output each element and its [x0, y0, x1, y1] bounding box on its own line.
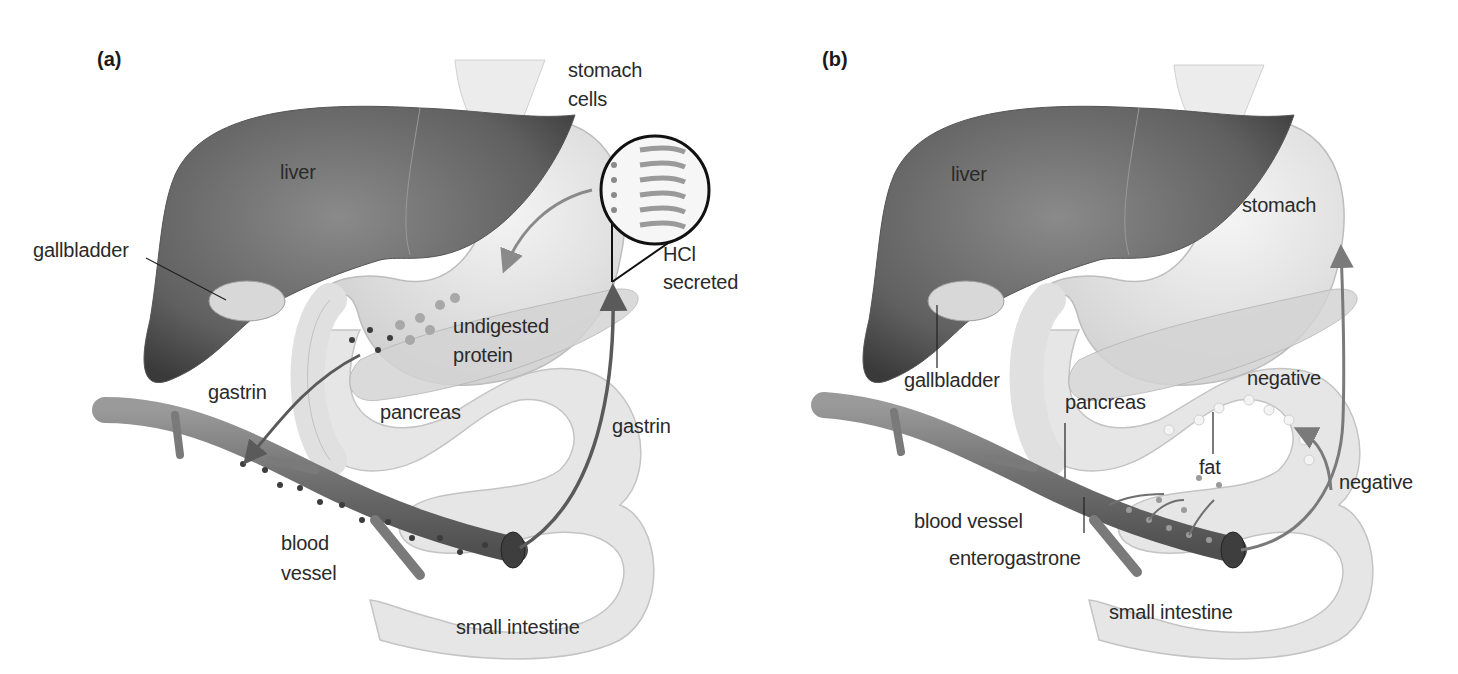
label-small-intestine: small intestine [456, 613, 580, 641]
label-small-intestine: small intestine [1109, 598, 1233, 626]
panel-b-label: (b) [822, 48, 848, 71]
label-liver: liver [951, 160, 987, 188]
label-gastrin-left: gastrin [208, 378, 267, 406]
label-secreted: secreted [663, 268, 738, 296]
label-liver: liver [280, 158, 316, 186]
label-stomach: stomach [1242, 191, 1316, 219]
label-enterogastrone: enterogastrone [949, 544, 1081, 572]
label-vessel: vessel [281, 559, 337, 587]
label-gastrin-right: gastrin [612, 412, 671, 440]
label-stomach-cells-line1: stomach [568, 56, 642, 84]
label-pancreas: pancreas [380, 398, 461, 426]
label-undigested: undigested [453, 312, 549, 340]
label-negative-top: negative [1247, 364, 1321, 392]
label-gallbladder: gallbladder [904, 366, 1000, 394]
label-blood: blood [281, 529, 329, 557]
label-pancreas: pancreas [1065, 388, 1146, 416]
panel-a: (a) stomach cells liver gallbladder HCl … [0, 0, 729, 674]
panel-b: (b) liver stomach gallbladder negative p… [729, 0, 1458, 674]
label-stomach-cells-line2: cells [568, 85, 607, 113]
gallbladder-shape [928, 281, 1004, 321]
label-blood-vessel: blood vessel [914, 507, 1023, 535]
label-hcl: HCl [663, 240, 696, 268]
label-fat: fat [1199, 453, 1221, 481]
label-negative-bottom: negative [1339, 468, 1413, 496]
label-gallbladder: gallbladder [33, 236, 129, 264]
gallbladder-shape [209, 281, 285, 321]
panel-a-label: (a) [97, 48, 121, 71]
panel-b-illustration [729, 0, 1458, 674]
label-protein: protein [453, 341, 513, 369]
panel-a-illustration [0, 0, 729, 674]
